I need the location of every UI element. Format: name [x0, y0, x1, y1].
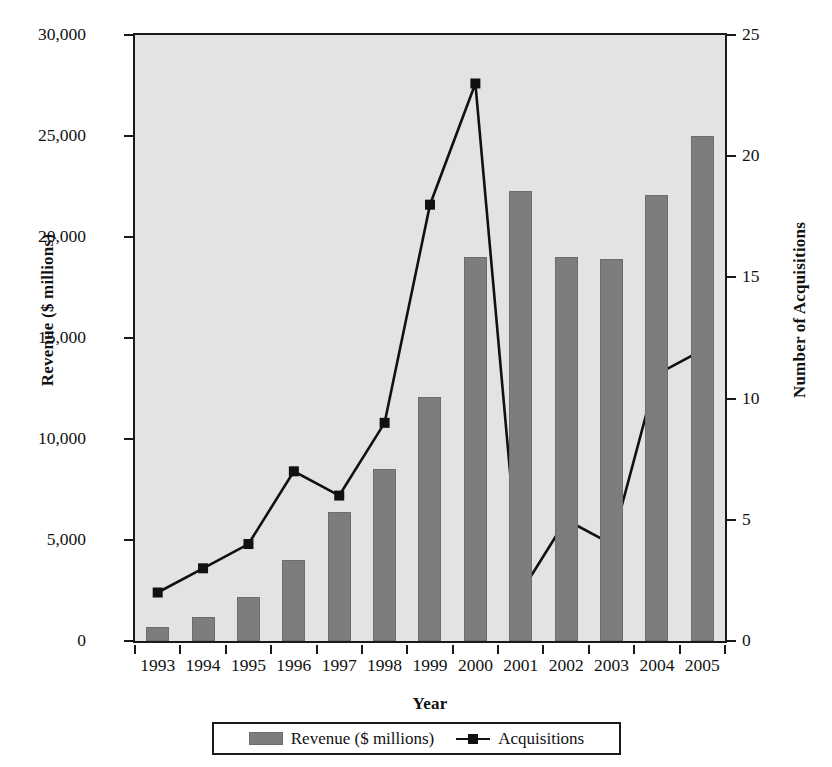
bar-slot — [589, 35, 634, 641]
y-axis-left-tick — [124, 236, 133, 238]
revenue-bar — [464, 257, 487, 641]
legend-item-revenue: Revenue ($ millions) — [249, 729, 435, 749]
revenue-bar — [555, 257, 578, 641]
revenue-bar — [509, 191, 532, 641]
chart-legend: Revenue ($ millions) Acquisitions — [212, 722, 621, 755]
y-axis-left-tick — [124, 539, 133, 541]
chart-figure: Revenue ($ millions) Number of Acquisiti… — [0, 0, 832, 767]
y-axis-left-tick — [124, 135, 133, 137]
legend-label-revenue: Revenue ($ millions) — [291, 729, 435, 749]
x-axis-tick — [361, 645, 363, 654]
x-axis-tick — [497, 645, 499, 654]
legend-label-acquisitions: Acquisitions — [498, 729, 584, 749]
x-axis-tick — [452, 645, 454, 654]
bar-slot — [271, 35, 316, 641]
x-axis-tick — [270, 645, 272, 654]
y-axis-right-tick — [727, 155, 736, 157]
x-axis-tick-label: 2005 — [676, 657, 729, 675]
y-axis-right-tick — [727, 276, 736, 278]
y-axis-left-tick — [124, 34, 133, 36]
x-axis-tick — [179, 645, 181, 654]
bar-slot — [362, 35, 407, 641]
bar-swatch-icon — [249, 732, 283, 745]
y-axis-right-tick — [727, 640, 736, 642]
plot-inner: 1993: 21994: 31995: 41996: 71997: 61998:… — [135, 35, 725, 641]
y-axis-left-tick-label: 15,000 — [38, 329, 86, 347]
y-axis-left-tick-label: 5,000 — [47, 531, 86, 549]
revenue-bar — [691, 136, 714, 641]
x-axis-tick — [225, 645, 227, 654]
y-axis-right-tick-label: 10 — [742, 390, 760, 408]
revenue-bar — [645, 195, 668, 641]
bar-slot — [634, 35, 679, 641]
y-axis-left-title: Revenue ($ millions) — [38, 170, 58, 450]
bar-slot — [498, 35, 543, 641]
y-axis-right-tick-label: 20 — [742, 147, 760, 165]
y-axis-right-tick — [727, 398, 736, 400]
x-axis-title: Year — [133, 694, 727, 714]
y-axis-left-tick-label: 25,000 — [38, 127, 86, 145]
revenue-bar — [237, 597, 260, 641]
legend-item-acquisitions: Acquisitions — [456, 729, 584, 749]
x-axis-tick — [406, 645, 408, 654]
x-axis-tick — [134, 645, 136, 654]
revenue-bar — [192, 617, 215, 641]
x-axis-tick — [588, 645, 590, 654]
bar-slot — [543, 35, 588, 641]
bar-slot — [180, 35, 225, 641]
y-axis-right-tick — [727, 34, 736, 36]
revenue-bar — [146, 627, 169, 641]
y-axis-left-tick — [124, 438, 133, 440]
x-axis-tick — [724, 645, 726, 654]
plot-area: 1993: 21994: 31995: 41996: 71997: 61998:… — [133, 33, 727, 643]
y-axis-right-tick-label: 15 — [742, 268, 760, 286]
bar-slot — [453, 35, 498, 641]
y-axis-right-tick-label: 0 — [742, 632, 751, 650]
y-axis-left-tick — [124, 640, 133, 642]
revenue-bar — [373, 469, 396, 641]
bar-slot — [407, 35, 452, 641]
x-axis-tick — [679, 645, 681, 654]
y-axis-right-tick — [727, 519, 736, 521]
x-axis-tick — [316, 645, 318, 654]
bar-slot — [135, 35, 180, 641]
y-axis-left-tick-label: 30,000 — [38, 26, 86, 44]
bar-slot — [680, 35, 725, 641]
line-square-swatch-icon — [456, 733, 490, 745]
y-axis-left-tick-label: 20,000 — [38, 228, 86, 246]
y-axis-right-tick-label: 25 — [742, 26, 760, 44]
revenue-bar — [418, 397, 441, 641]
bar-slot — [317, 35, 362, 641]
y-axis-right-tick-label: 5 — [742, 511, 751, 529]
revenue-bar — [282, 560, 305, 641]
y-axis-left-tick-label: 0 — [77, 632, 86, 650]
x-axis-tick — [542, 645, 544, 654]
y-axis-left-tick-label: 10,000 — [38, 430, 86, 448]
revenue-bar — [328, 512, 351, 641]
y-axis-right-title: Number of Acquisitions — [790, 170, 810, 450]
y-axis-left-tick — [124, 337, 133, 339]
revenue-bar — [600, 259, 623, 641]
bar-slot — [226, 35, 271, 641]
x-axis-tick — [633, 645, 635, 654]
